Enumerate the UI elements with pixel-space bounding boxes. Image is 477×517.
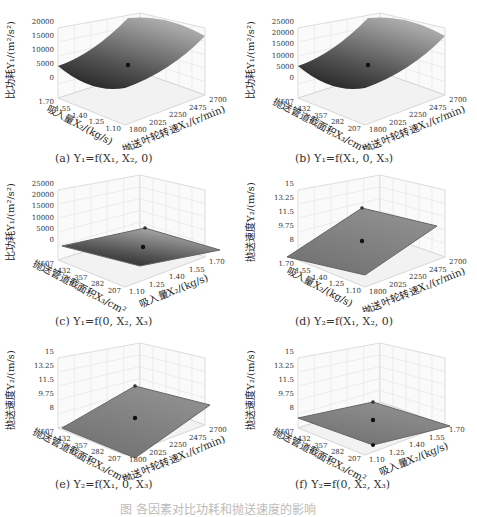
svg-text:207: 207 [348,455,361,463]
svg-text:比功耗Y₁/(m²/s²): 比功耗Y₁/(m²/s²) [245,21,256,99]
svg-text:207: 207 [108,287,121,295]
svg-text:2700: 2700 [449,258,467,266]
svg-text:8: 8 [290,404,294,412]
svg-text:11.5: 11.5 [278,208,294,216]
svg-text:20000: 20000 [272,29,294,37]
svg-text:1800: 1800 [369,126,387,134]
svg-text:0: 0 [50,236,54,244]
svg-text:15: 15 [285,348,294,356]
figure-caption: 图 各因素对比功耗和抛送速度的影响 [120,500,316,517]
svg-text:15: 15 [285,180,294,188]
svg-text:1.10: 1.10 [129,288,145,296]
svg-text:5000: 5000 [36,225,54,233]
svg-text:1.25: 1.25 [149,281,165,289]
svg-text:抛送速度Y₂/(m/s): 抛送速度Y₂/(m/s) [244,350,256,430]
svg-text:1.40: 1.40 [409,441,425,449]
chart-panel-d: 89.7511.513.25151.701.551.401.251.101800… [240,162,477,324]
chart-panel-f: 89.7511.513.25155074323572822071.101.251… [240,330,477,492]
svg-text:5000: 5000 [36,60,54,68]
chart-panel-e: 89.7511.513.2515507432357282207180020252… [0,330,238,492]
svg-text:比功耗Y₁/(m²/s²): 比功耗Y₁/(m²/s²) [5,21,16,99]
svg-text:10000: 10000 [32,214,54,222]
svg-text:1800: 1800 [369,288,387,296]
svg-text:5000: 5000 [276,63,294,71]
svg-text:9.75: 9.75 [278,222,294,230]
svg-text:2025: 2025 [389,281,407,289]
svg-text:1.10: 1.10 [345,287,361,295]
svg-text:15: 15 [45,348,54,356]
svg-text:11.5: 11.5 [278,376,294,384]
chart-panel-b: 0500010000150002000025000507432357282207… [240,0,477,162]
svg-text:11.5: 11.5 [38,376,54,384]
svg-text:20000: 20000 [32,18,54,26]
svg-text:13.25: 13.25 [274,194,294,202]
svg-text:2700: 2700 [209,426,227,434]
panel-caption-f: (f) Y₂=f(0, X₂, X₃) [295,478,390,491]
svg-text:1.10: 1.10 [105,125,121,133]
svg-text:9.75: 9.75 [38,390,54,398]
svg-text:1.70: 1.70 [209,258,225,266]
svg-text:9.75: 9.75 [278,390,294,398]
svg-text:8: 8 [290,236,294,244]
svg-text:0: 0 [50,74,54,82]
svg-text:1.70: 1.70 [449,426,465,434]
svg-text:2025: 2025 [149,119,167,127]
chart-panel-a: 050001000015000200001.701.551.401.251.10… [0,0,238,162]
svg-text:抛送速度Y₂/(m/s): 抛送速度Y₂/(m/s) [244,182,256,262]
chart-panel-c: 0500010000150002000025000507432357282207… [0,162,238,324]
svg-text:25000: 25000 [272,18,294,26]
svg-text:抛送速度Y₂/(m/s): 抛送速度Y₂/(m/s) [4,350,16,430]
svg-text:207: 207 [348,125,361,133]
panel-caption-c: (c) Y₁=f(0, X₂, X₃) [55,315,152,328]
svg-text:1.40: 1.40 [169,273,185,281]
svg-text:25000: 25000 [32,180,54,188]
svg-text:1800: 1800 [129,126,147,134]
svg-text:13.25: 13.25 [34,362,54,370]
svg-text:20000: 20000 [32,191,54,199]
svg-text:2025: 2025 [149,449,167,457]
panel-caption-e: (e) Y₂=f(X₁, 0, X₃) [55,478,153,491]
svg-text:1.25: 1.25 [389,449,405,457]
svg-text:8: 8 [50,404,54,412]
svg-text:15000: 15000 [272,40,294,48]
svg-text:2025: 2025 [389,119,407,127]
svg-text:2700: 2700 [209,96,227,104]
svg-text:比功耗Y₁/(m²/s²): 比功耗Y₁/(m²/s²) [5,183,16,261]
svg-text:10000: 10000 [272,52,294,60]
panel-caption-d: (d) Y₂=f(X₁, X₂, 0) [295,315,393,328]
svg-text:1800: 1800 [129,456,147,464]
svg-text:2700: 2700 [449,96,467,104]
svg-text:13.25: 13.25 [274,362,294,370]
svg-text:0: 0 [290,74,294,82]
svg-text:10000: 10000 [32,46,54,54]
svg-text:207: 207 [108,455,121,463]
svg-text:15000: 15000 [32,202,54,210]
svg-text:15000: 15000 [32,32,54,40]
svg-text:1.10: 1.10 [369,456,385,464]
